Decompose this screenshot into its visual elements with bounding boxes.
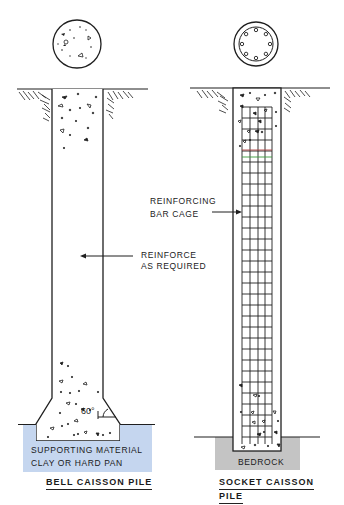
supporting-material-label: SUPPORTING MATERIAL CLAY OR HARD PAN xyxy=(31,445,143,469)
bell-pile-section-view xyxy=(53,20,101,68)
arrow-right-icon xyxy=(212,210,242,215)
bell-pile-caption-text: BELL CAISSON PILE xyxy=(46,477,152,490)
bar-cage-annotation-line2: BAR CAGE xyxy=(150,209,216,220)
bell-pile-caption: BELL CAISSON PILE xyxy=(46,477,152,491)
supporting-material-band xyxy=(23,424,36,441)
bar-cage-annotation: REINFORCING BAR CAGE xyxy=(150,196,216,220)
reinforce-annotation: REINFORCE AS REQUIRED xyxy=(141,250,206,272)
socket-pile-caption: SOCKET CAISSON PILE xyxy=(219,477,314,505)
angle-label: 60° xyxy=(81,406,95,416)
socket-pile-shaft xyxy=(233,88,281,451)
supporting-material-line1: SUPPORTING MATERIAL xyxy=(31,445,143,456)
bar-cage-annotation-line1: REINFORCING xyxy=(150,196,216,207)
bell-pile-shaft xyxy=(36,89,120,441)
rebar-icon xyxy=(240,28,271,59)
socket-pile-caption-line2: PILE xyxy=(219,491,243,504)
socket-pile-caption-line1: SOCKET CAISSON xyxy=(219,477,314,490)
reinforce-annotation-line2: AS REQUIRED xyxy=(141,261,206,272)
ground-line-bearing xyxy=(18,424,36,425)
supporting-material-line2: CLAY OR HARD PAN xyxy=(31,458,143,469)
socket-pile-section-view xyxy=(234,22,278,66)
bedrock-label: BEDROCK xyxy=(238,457,284,468)
reinforce-annotation-line1: REINFORCE xyxy=(141,250,206,261)
supporting-material-band xyxy=(120,424,152,441)
ground-line-bearing xyxy=(120,424,155,425)
